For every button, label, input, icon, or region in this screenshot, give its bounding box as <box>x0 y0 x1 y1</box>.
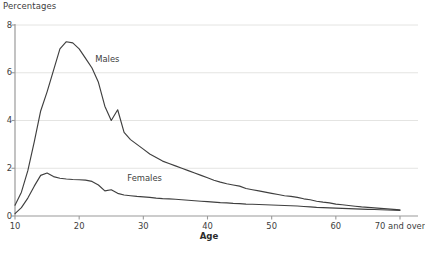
series-label-males: Males <box>95 54 119 64</box>
data-series-group <box>15 42 400 214</box>
series-line-females <box>15 173 400 214</box>
gridlines-group <box>15 25 418 168</box>
x-tick-label-60: 60 <box>330 221 341 231</box>
x-tick-label-70: 70 and over <box>375 221 425 231</box>
y-tick-label-6: 6 <box>0 67 12 77</box>
series-label-females: Females <box>127 173 162 183</box>
x-tick-label-40: 40 <box>202 221 213 231</box>
y-tick-label-4: 4 <box>0 115 12 125</box>
x-tick-label-30: 30 <box>138 221 149 231</box>
tick-marks-group <box>12 25 401 220</box>
series-line-males <box>15 42 400 210</box>
x-axis-title: Age <box>0 231 418 241</box>
y-tick-label-8: 8 <box>0 20 12 30</box>
x-tick-label-50: 50 <box>266 221 277 231</box>
x-tick-label-10: 10 <box>10 221 21 231</box>
y-tick-label-0: 0 <box>0 211 12 221</box>
x-tick-label-20: 20 <box>74 221 85 231</box>
y-tick-label-2: 2 <box>0 163 12 173</box>
